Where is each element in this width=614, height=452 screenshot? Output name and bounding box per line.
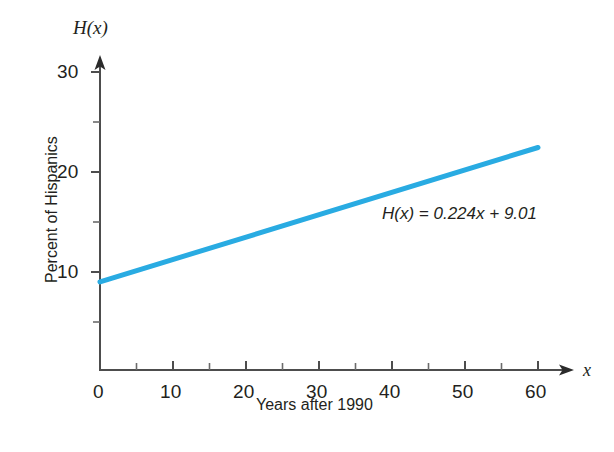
x-axis-title: Years after 1990 — [256, 397, 373, 413]
x-tick-label-10: 10 — [160, 382, 182, 401]
equation-annotation: H(x) = 0.224x + 9.01 — [382, 205, 537, 222]
y-axis-variable-label: H(x) — [73, 18, 108, 37]
y-tick-label-20: 20 — [57, 162, 79, 181]
chart-figure: H(x) x 30 20 10 0 10 20 30 40 50 60 Perc… — [0, 0, 614, 452]
y-axis-title: Percent of Hispanics — [44, 136, 60, 283]
x-tick-label-20: 20 — [233, 382, 255, 401]
y-tick-label-30: 30 — [57, 62, 79, 81]
x-tick-label-50: 50 — [452, 382, 474, 401]
x-tick-label-60: 60 — [525, 382, 547, 401]
x-tick-label-40: 40 — [379, 382, 401, 401]
x-tick-label-0: 0 — [93, 382, 104, 401]
y-tick-label-10: 10 — [57, 262, 79, 281]
x-axis-variable-label: x — [583, 361, 591, 379]
